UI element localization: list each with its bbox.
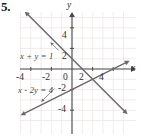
x-tick-label-neg2: -2 <box>42 73 50 83</box>
y-tick-label-neg2: -2 <box>58 84 66 94</box>
coordinate-plane: -4 -2 0 2 4 4 2 -2 -4 y x x + y = 1 x - … <box>20 12 136 134</box>
graph-svg <box>20 12 136 134</box>
figure-container: 5. -4 -2 0 2 <box>0 0 141 138</box>
problem-number-label: 5. <box>1 0 10 14</box>
x-tick-label-2: 2 <box>79 73 84 83</box>
equation-label-line1: x + y = 1 <box>20 52 54 61</box>
y-tick-label-neg4: -4 <box>58 105 66 115</box>
x-tick-label-neg4: -4 <box>16 73 24 83</box>
y-tick-label-2: 2 <box>62 52 67 62</box>
y-tick-label-4: 4 <box>62 31 67 41</box>
x-tick-label-zero: 0 <box>63 73 68 83</box>
x-tick-label-4: 4 <box>99 73 104 83</box>
plot-background <box>20 12 136 134</box>
y-axis-label: y <box>67 1 71 11</box>
equation-label-line2: x - 2y = 4 <box>18 86 53 95</box>
x-axis-label: x <box>131 64 135 74</box>
